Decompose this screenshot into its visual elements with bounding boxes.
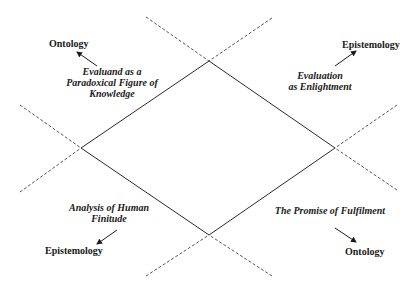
- quadrant-text-line: Knowledge: [64, 88, 160, 99]
- dashed-extension-top-left: [146, 17, 209, 61]
- quadrant-text-line: The Promise of Fulfilment: [270, 205, 390, 216]
- quadrant-text-line: as Enlightment: [280, 81, 360, 92]
- arrow-top-left-icon: [77, 52, 97, 66]
- quadrant-text-line: Evaluation: [280, 70, 360, 81]
- dashed-extension-top-right: [209, 18, 272, 61]
- corner-label-top-left: Ontology: [49, 38, 88, 49]
- dashed-extension-left-upper: [20, 105, 81, 148]
- quadrant-bottom-left-text: Analysis of Human Finitude: [64, 202, 154, 224]
- dashed-extension-right-lower: [335, 148, 397, 190]
- dashed-extension-right-upper: [335, 105, 397, 148]
- corner-label-bottom-left: Epistemology: [45, 245, 103, 256]
- quadrant-text-line: Finitude: [64, 213, 154, 224]
- corner-label-top-right: Epistemology: [342, 39, 400, 50]
- quadrant-text-line: Evaluand as a: [64, 66, 160, 77]
- arrow-bottom-left-icon: [97, 230, 117, 244]
- quadrant-bottom-right-text: The Promise of Fulfilment: [270, 205, 390, 216]
- quadrant-text-line: Paradoxical Figure of: [64, 77, 160, 88]
- arrow-top-right-icon: [335, 51, 356, 66]
- quadrant-text-line: Analysis of Human: [64, 202, 154, 213]
- dashed-extension-bottom-left: [146, 235, 209, 276]
- dashed-extension-bottom-right: [209, 235, 272, 276]
- corner-label-bottom-right: Ontology: [345, 246, 384, 257]
- quadrant-top-left-text: Evaluand as a Paradoxical Figure of Know…: [64, 66, 160, 99]
- arrow-bottom-right-icon: [335, 228, 356, 242]
- quadrant-top-right-text: Evaluation as Enlightment: [280, 70, 360, 92]
- dashed-extension-left-lower: [20, 148, 81, 192]
